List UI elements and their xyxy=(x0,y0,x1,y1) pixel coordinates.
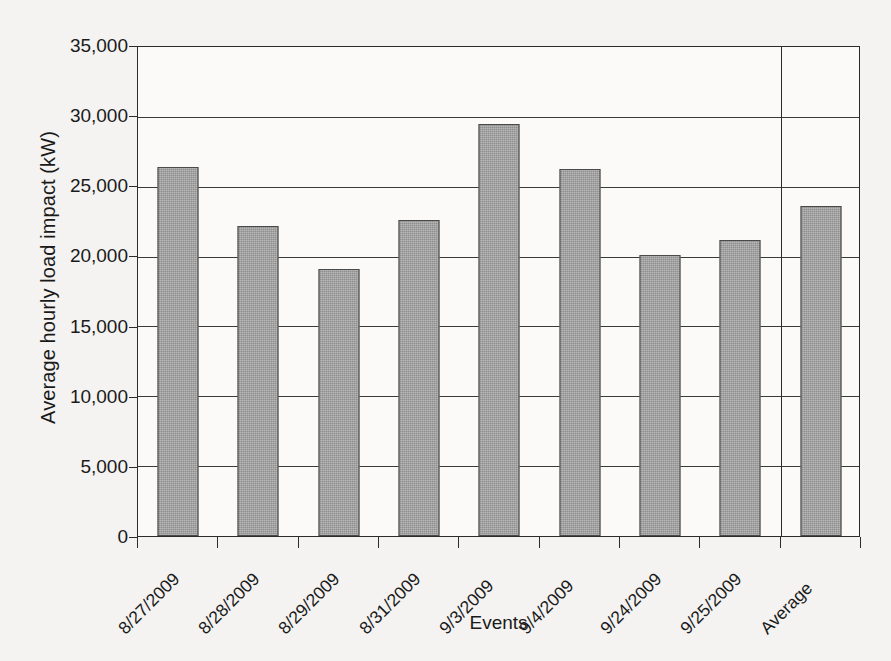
bar-slot xyxy=(781,47,861,536)
bar-chart: Average hourly load impact (kW) 35,00030… xyxy=(0,0,891,661)
bar[interactable] xyxy=(800,206,841,536)
average-separator-line xyxy=(781,47,782,536)
x-axis-tick-mark xyxy=(860,537,861,548)
bar[interactable] xyxy=(399,220,440,536)
bar-slot xyxy=(138,47,218,536)
plot-area xyxy=(137,46,860,537)
bar[interactable] xyxy=(479,124,520,536)
bar[interactable] xyxy=(238,226,279,536)
bar-slot xyxy=(459,47,539,536)
bar-slot xyxy=(620,47,700,536)
bar[interactable] xyxy=(559,169,600,536)
y-axis-tick-marks xyxy=(0,46,140,537)
bar-slot xyxy=(299,47,379,536)
x-axis-title: Events xyxy=(137,612,860,634)
bar-slot xyxy=(218,47,298,536)
bar[interactable] xyxy=(720,240,761,536)
bar-slot xyxy=(540,47,620,536)
bar[interactable] xyxy=(158,167,199,536)
bar[interactable] xyxy=(640,255,681,536)
bar-slot xyxy=(379,47,459,536)
bar[interactable] xyxy=(318,269,359,536)
bar-slot xyxy=(700,47,780,536)
